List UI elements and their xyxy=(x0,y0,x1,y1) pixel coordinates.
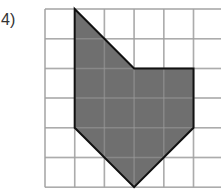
grid-diagram xyxy=(0,0,221,194)
